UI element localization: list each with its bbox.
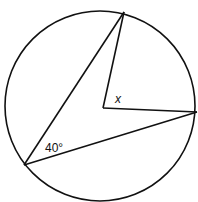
circle (5, 11, 195, 201)
inscribed-angle-label: 40° (45, 141, 63, 155)
chord-bottomleft-right (24, 112, 197, 165)
circle-diagram: 40° x (0, 0, 198, 202)
radius-center-right (103, 108, 197, 112)
central-angle-label: x (114, 92, 122, 106)
chord-bottomleft-top (24, 12, 124, 165)
